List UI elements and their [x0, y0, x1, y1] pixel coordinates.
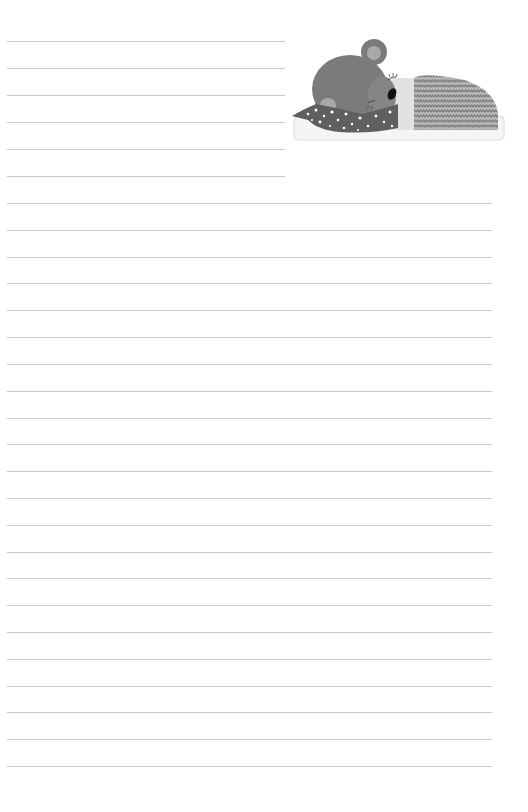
- sleeping-bear-icon: [290, 34, 506, 146]
- ruled-line: [7, 605, 492, 606]
- blanket: [414, 75, 498, 130]
- ruled-line: [7, 525, 492, 526]
- ruled-line: [7, 498, 492, 499]
- ruled-line: [7, 283, 492, 284]
- ruled-line: [7, 149, 285, 150]
- ruled-line: [7, 95, 285, 96]
- ruled-line: [7, 471, 492, 472]
- ruled-line: [7, 418, 492, 419]
- ruled-line: [7, 337, 492, 338]
- ruled-line: [7, 257, 492, 258]
- ruled-line: [7, 310, 492, 311]
- ruled-line: [7, 739, 492, 740]
- ruled-line: [7, 766, 492, 767]
- ruled-line: [7, 203, 492, 204]
- ruled-line: [7, 686, 492, 687]
- ruled-line: [7, 552, 492, 553]
- ruled-line: [7, 176, 285, 177]
- bear-ear-top-inner: [367, 46, 381, 60]
- ruled-line: [7, 364, 492, 365]
- ruled-line: [7, 391, 492, 392]
- ruled-line: [7, 632, 492, 633]
- ruled-line: [7, 68, 285, 69]
- notebook-page: [0, 0, 528, 812]
- ruled-line: [7, 659, 492, 660]
- ruled-line: [7, 230, 492, 231]
- ruled-line: [7, 122, 285, 123]
- ruled-line: [7, 444, 492, 445]
- ruled-line: [7, 41, 285, 42]
- ruled-line: [7, 578, 492, 579]
- ruled-line: [7, 712, 492, 713]
